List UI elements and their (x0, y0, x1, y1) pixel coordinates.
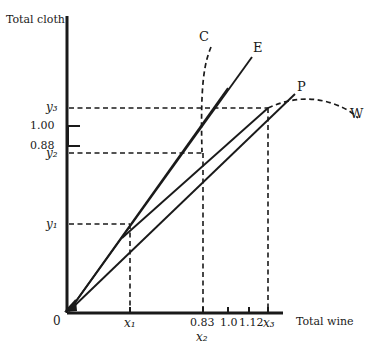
ray-P-line (69, 94, 295, 311)
chord-line (122, 108, 268, 238)
x-tick-label-x2: x₂ (196, 331, 208, 343)
curve-label-W: W (350, 107, 363, 120)
origin-label: 0 (53, 315, 61, 327)
y-tick-label-1.00: 1.00 (30, 120, 55, 131)
x-tick-label-1.12: 1.12 (239, 317, 264, 328)
curve-label-P: P (297, 80, 306, 93)
chart-figure: Total cloth Total wine 0 y₃ 1.00 0.88 y₂… (0, 0, 376, 349)
x-axis-title: Total wine (296, 316, 354, 327)
curve-label-E: E (253, 41, 263, 54)
x-tick-label-0.83: 0.83 (190, 317, 215, 328)
curve-W-path (268, 99, 358, 118)
x-tick-label-x3: x₃ (263, 317, 275, 329)
curve-C-path (202, 47, 211, 152)
ray-third-line (69, 88, 228, 311)
y-tick-label-y1: y₁ (46, 218, 58, 230)
chart-plot-area (0, 0, 376, 349)
x-tick-label-x1: x₁ (124, 317, 136, 329)
x-tick-label-1.0: 1.0 (220, 317, 238, 328)
curve-label-C: C (199, 30, 209, 43)
y-tick-label-y2: y₂ (46, 147, 58, 159)
y-tick-label-y3: y₃ (46, 101, 58, 113)
y-axis-title: Total cloth (6, 14, 65, 25)
